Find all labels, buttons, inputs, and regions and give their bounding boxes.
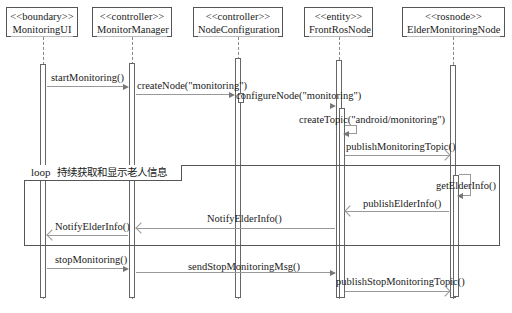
message-line-notify-elder-info-ui bbox=[47, 235, 128, 236]
arrowhead-icon bbox=[330, 103, 336, 109]
message-label-start-monitoring: startMonitoring() bbox=[51, 72, 124, 84]
loop-guard: 持续获取和显示老人信息 bbox=[57, 166, 167, 178]
arrowhead-icon bbox=[457, 193, 463, 199]
message-label-configure-node: configureNode("monitoring") bbox=[236, 90, 361, 102]
participant-stereotype: <<entity>> bbox=[305, 10, 372, 23]
message-line-stop-monitoring bbox=[47, 268, 127, 269]
participant-elder-monitoring-node: <<rosnode>> ElderMonitoringNode bbox=[402, 7, 505, 37]
participant-stereotype: <<rosnode>> bbox=[403, 10, 504, 23]
arrowhead-icon bbox=[229, 92, 235, 98]
participant-stereotype: <<controller>> bbox=[194, 10, 282, 23]
message-label-get-elder-info: getElderInfo() bbox=[436, 180, 496, 192]
arrowhead-icon bbox=[343, 131, 349, 137]
participant-front-ros-node: <<entity>> FrontRosNode bbox=[304, 7, 373, 37]
loop-fragment-label: loop持续获取和显示老人信息 bbox=[24, 165, 182, 181]
participant-name: ElderMonitoringNode bbox=[407, 23, 500, 37]
participant-monitor-manager: <<controller>> MonitorManager bbox=[92, 7, 172, 37]
message-label-create-node: createNode("monitoring") bbox=[137, 80, 247, 92]
arrowhead-icon bbox=[123, 266, 129, 272]
message-label-notify-elder-info-front: NotifyElderInfo() bbox=[207, 213, 282, 225]
participant-monitoring-ui: <<boundary>> MonitoringUI bbox=[6, 7, 78, 37]
message-label-publish-elder-info: publishElderInfo() bbox=[363, 198, 441, 210]
participant-name: FrontRosNode bbox=[309, 23, 368, 37]
participant-node-configuration: <<controller>> NodeConfiguration bbox=[193, 7, 283, 37]
message-line-publish-monitoring-topic bbox=[345, 155, 449, 156]
message-line-send-stop-monitoring-msg bbox=[136, 272, 334, 273]
message-label-publish-monitoring-topic: publishMonitoringTopic() bbox=[346, 141, 456, 153]
participant-stereotype: <<boundary>> bbox=[7, 10, 77, 23]
participant-stereotype: <<controller>> bbox=[93, 10, 171, 23]
message-label-notify-elder-info-ui: NotifyElderInfo() bbox=[55, 221, 130, 233]
loop-operator: loop bbox=[31, 166, 51, 178]
participant-name: MonitorManager bbox=[97, 23, 167, 37]
message-line-start-monitoring bbox=[47, 86, 127, 87]
message-line-publish-stop-monitoring-topic bbox=[345, 291, 449, 292]
message-label-create-topic: createTopic("android/monitoring") bbox=[299, 114, 445, 126]
arrowhead-icon bbox=[123, 84, 129, 90]
message-label-stop-monitoring: stopMonitoring() bbox=[55, 254, 127, 266]
message-line-create-node bbox=[136, 94, 233, 95]
participant-name: MonitoringUI bbox=[11, 23, 73, 37]
participant-name: NodeConfiguration bbox=[198, 23, 278, 37]
message-line-notify-elder-info-front bbox=[136, 228, 335, 229]
message-line-publish-elder-info bbox=[345, 211, 449, 212]
